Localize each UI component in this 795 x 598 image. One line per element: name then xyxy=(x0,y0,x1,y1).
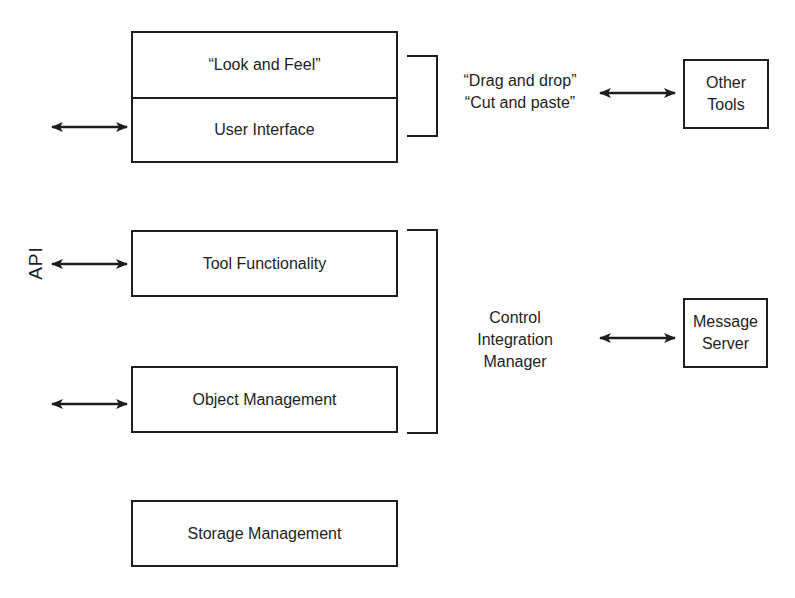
object-management-box: Object Management xyxy=(131,366,398,433)
tool-functionality-label: Tool Functionality xyxy=(203,253,327,275)
api-label: API xyxy=(25,245,47,281)
drag-and-drop-text: “Drag and drop” xyxy=(455,70,585,92)
ui-integration-label: “Drag and drop” “Cut and paste” xyxy=(455,70,585,114)
other-tools-box: Other Tools xyxy=(683,59,769,129)
look-and-feel-label: “Look and Feel” xyxy=(208,54,320,76)
storage-management-box: Storage Management xyxy=(131,500,398,567)
look-and-feel-cell: “Look and Feel” xyxy=(133,33,396,99)
tool-functionality-box: Tool Functionality xyxy=(131,230,398,297)
object-management-label: Object Management xyxy=(192,389,336,411)
message-server-box: Message Server xyxy=(683,298,768,368)
other-tools-line2: Tools xyxy=(707,94,744,116)
cut-and-paste-text: “Cut and paste” xyxy=(455,92,585,114)
control-text: Control xyxy=(460,307,570,329)
user-interface-label: User Interface xyxy=(214,119,314,141)
control-integration-label: Control Integration Manager xyxy=(460,307,570,373)
message-server-line2: Server xyxy=(702,333,749,355)
integration-text: Integration xyxy=(460,329,570,351)
message-server-line1: Message xyxy=(693,311,758,333)
other-tools-line1: Other xyxy=(706,72,746,94)
bracket-ui xyxy=(407,56,437,136)
storage-management-label: Storage Management xyxy=(188,523,342,545)
bracket-control xyxy=(407,230,437,433)
ui-layer-box: “Look and Feel” User Interface xyxy=(131,31,398,163)
user-interface-cell: User Interface xyxy=(133,99,396,161)
manager-text: Manager xyxy=(460,351,570,373)
